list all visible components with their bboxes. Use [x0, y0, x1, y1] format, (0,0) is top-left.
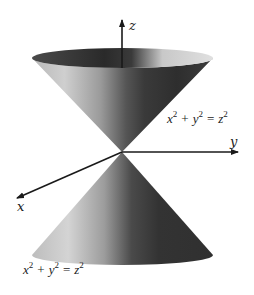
lower-cone-surface: [32, 152, 213, 265]
lower-cone: [32, 152, 213, 265]
y-axis-label: y: [229, 134, 238, 149]
upper-equation: x2+y2=z2: [166, 109, 228, 126]
double-cone-diagram: z y x x2+y2=z2 x2+y2=z2: [0, 0, 254, 295]
lower-equation: x2+y2=z2: [22, 260, 84, 277]
upper-cone-surface: [32, 58, 213, 152]
z-axis-label: z: [128, 18, 136, 33]
x-axis-label: x: [17, 199, 25, 214]
